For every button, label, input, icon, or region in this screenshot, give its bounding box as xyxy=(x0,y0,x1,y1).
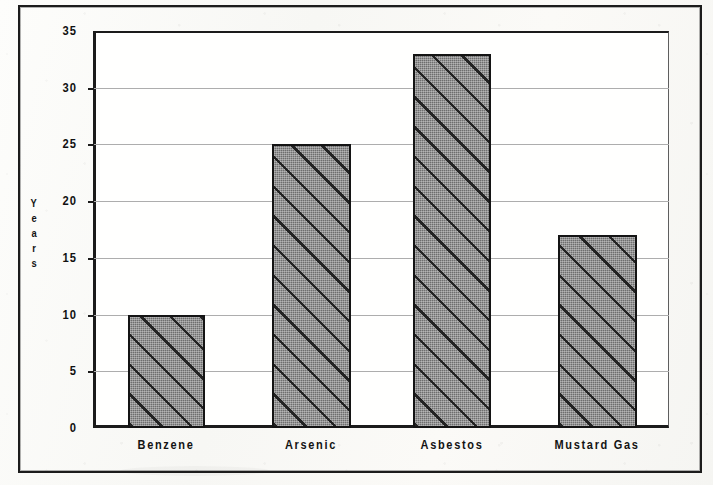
y-axis-title-letter: a xyxy=(31,226,36,241)
x-axis-label-mustard-gas: Mustard Gas xyxy=(518,438,676,452)
y-axis-tick-mark xyxy=(88,315,94,317)
y-axis-tick-label: 0 xyxy=(43,420,77,435)
y-axis-title-letter: s xyxy=(31,256,36,271)
y-axis-tick-mark xyxy=(88,144,94,146)
y-axis-tick-label: 10 xyxy=(43,307,77,322)
gridline xyxy=(93,88,669,89)
x-axis-label-arsenic: Arsenic xyxy=(232,438,390,452)
y-axis-tick-label: 35 xyxy=(43,23,77,38)
y-axis-tick-mark xyxy=(88,258,94,260)
y-axis-title-letter: r xyxy=(32,241,36,256)
y-axis-tick-mark xyxy=(88,371,94,373)
gridline xyxy=(93,201,669,202)
y-axis-tick-label: 25 xyxy=(43,136,77,151)
bar-asbestos xyxy=(413,54,491,428)
gridline xyxy=(93,144,669,145)
y-axis-tick-mark xyxy=(88,88,94,90)
x-axis-label-benzene: Benzene xyxy=(87,438,245,452)
y-axis-tick-mark xyxy=(88,201,94,203)
y-axis-title: Y e a r s xyxy=(26,196,42,271)
x-axis-label-asbestos: Asbestos xyxy=(373,438,531,452)
y-axis-tick-label: 5 xyxy=(43,363,77,378)
y-axis-tick-label: 20 xyxy=(43,193,77,208)
bar-chart: 05101520253035 xyxy=(93,31,669,428)
bar-benzene xyxy=(128,315,205,428)
bar-arsenic xyxy=(272,144,351,428)
y-axis-tick-label: 15 xyxy=(43,250,77,265)
y-axis-tick-label: 30 xyxy=(43,80,77,95)
bar-mustard-gas xyxy=(558,235,637,428)
y-axis-title-letter: e xyxy=(31,211,36,226)
y-axis-title-letter: Y xyxy=(31,196,37,211)
